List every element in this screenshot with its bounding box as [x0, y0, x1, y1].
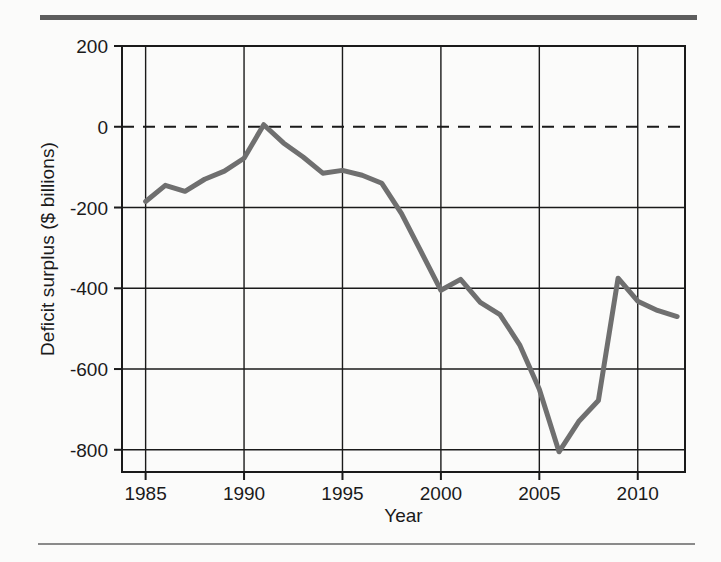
- x-axis-title: Year: [122, 505, 685, 527]
- y-axis-title: Deficit surplus ($ billions): [37, 109, 59, 389]
- svg-text:-200: -200: [70, 198, 108, 219]
- svg-text:-600: -600: [70, 359, 108, 380]
- x-tick-marks: [146, 472, 638, 480]
- y-tick-marks: [114, 46, 122, 450]
- svg-text:2010: 2010: [617, 483, 659, 504]
- svg-text:200: 200: [76, 36, 108, 57]
- svg-text:1995: 1995: [321, 483, 363, 504]
- svg-text:2000: 2000: [420, 483, 462, 504]
- svg-text:1985: 1985: [124, 483, 166, 504]
- svg-text:-400: -400: [70, 278, 108, 299]
- x-tick-labels: 198519901995200020052010: [124, 483, 658, 504]
- svg-text:2005: 2005: [518, 483, 560, 504]
- svg-text:-800: -800: [70, 440, 108, 461]
- svg-text:0: 0: [97, 117, 108, 138]
- line-chart: 2000-200-400-600-800 1985199019952000200…: [0, 0, 721, 562]
- y-tick-labels: 2000-200-400-600-800: [70, 36, 108, 461]
- vertical-gridlines: [146, 46, 638, 472]
- svg-text:1990: 1990: [223, 483, 265, 504]
- figure-container: 2000-200-400-600-800 1985199019952000200…: [0, 0, 721, 562]
- plot-border: [122, 46, 685, 472]
